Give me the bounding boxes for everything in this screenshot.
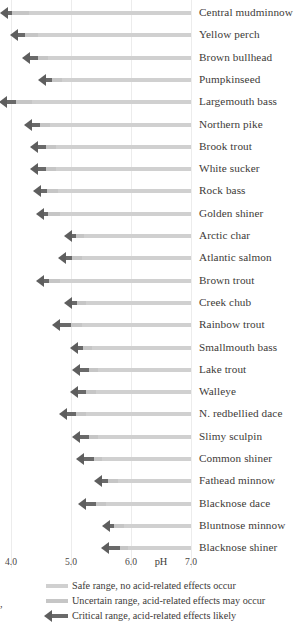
safe-range-segment bbox=[98, 368, 191, 372]
species-row[interactable]: Golden shiner bbox=[0, 203, 299, 225]
tolerance-bar bbox=[0, 24, 196, 46]
species-label: Smallmouth bass bbox=[199, 338, 277, 357]
uncertain-range-segment bbox=[16, 100, 32, 104]
legend-label: Uncertain range, acid-related effects ma… bbox=[72, 593, 265, 608]
species-label: White sucker bbox=[199, 159, 260, 178]
legend-swatch-uncertain bbox=[46, 599, 68, 603]
left-arrow-icon bbox=[0, 96, 7, 108]
uncertain-range-segment bbox=[38, 56, 48, 60]
species-row[interactable]: Walleye bbox=[0, 381, 299, 403]
species-row[interactable]: Slimy sculpin bbox=[0, 426, 299, 448]
species-label: Blacknose dace bbox=[199, 494, 270, 513]
species-row[interactable]: Fathead minnow bbox=[0, 470, 299, 492]
left-arrow-icon bbox=[64, 230, 72, 242]
tolerance-bar bbox=[0, 158, 196, 180]
tolerance-bar bbox=[0, 69, 196, 91]
species-row[interactable]: Central mudminnow bbox=[0, 2, 299, 24]
species-row[interactable]: Northern pike bbox=[0, 114, 299, 136]
left-arrow-icon bbox=[33, 185, 41, 197]
critical-range-segment bbox=[108, 546, 120, 550]
species-row[interactable]: Common shiner bbox=[0, 448, 299, 470]
uncertain-range-segment bbox=[48, 212, 60, 216]
species-label: Central mudminnow bbox=[199, 3, 293, 22]
species-label: Rainbow trout bbox=[199, 315, 265, 334]
species-row[interactable]: Arctic char bbox=[0, 225, 299, 247]
species-row[interactable]: Blacknose dace bbox=[0, 493, 299, 515]
critical-range-segment bbox=[31, 123, 40, 127]
uncertain-range-segment bbox=[72, 256, 82, 260]
uncertain-range-segment bbox=[46, 145, 56, 149]
safe-range-segment bbox=[98, 435, 191, 439]
safe-range-segment bbox=[102, 457, 191, 461]
safe-range-segment bbox=[118, 479, 191, 483]
species-label: Largemouth bass bbox=[199, 92, 277, 111]
species-label: Slimy sculpin bbox=[199, 427, 262, 446]
species-row[interactable]: Brown trout bbox=[0, 270, 299, 292]
critical-range-segment bbox=[6, 100, 16, 104]
species-row[interactable]: Brook trout bbox=[0, 136, 299, 158]
species-row[interactable]: Atlantic salmon bbox=[0, 247, 299, 269]
species-row[interactable]: Rainbow trout bbox=[0, 314, 299, 336]
tolerance-bar bbox=[0, 180, 196, 202]
species-row[interactable]: Smallmouth bass bbox=[0, 337, 299, 359]
left-arrow-icon bbox=[0, 7, 8, 19]
tolerance-bar bbox=[0, 314, 196, 336]
legend-item[interactable]: Uncertain range, acid-related effects ma… bbox=[0, 593, 299, 608]
safe-range-segment bbox=[84, 234, 191, 238]
ph-tolerance-chart: Central mudminnowYellow perchBrown bullh… bbox=[0, 0, 299, 628]
critical-range-segment bbox=[79, 435, 89, 439]
uncertain-range-segment bbox=[83, 346, 92, 350]
species-row[interactable]: Brown bullhead bbox=[0, 47, 299, 69]
safe-range-segment bbox=[96, 390, 191, 394]
safe-range-segment bbox=[60, 279, 191, 283]
species-row[interactable]: Largemouth bass bbox=[0, 91, 299, 113]
uncertain-range-segment bbox=[49, 279, 60, 283]
species-label: Pumpkinseed bbox=[199, 70, 260, 89]
species-row[interactable]: Bluntnose minnow bbox=[0, 515, 299, 537]
safe-range-segment bbox=[56, 167, 191, 171]
species-label: Lake trout bbox=[199, 360, 246, 379]
left-arrow-icon bbox=[30, 163, 38, 175]
critical-range-segment bbox=[45, 78, 52, 82]
left-arrow-icon bbox=[78, 498, 86, 510]
uncertain-range-segment bbox=[76, 412, 86, 416]
left-arrow-icon bbox=[38, 74, 46, 86]
species-label: N. redbellied dace bbox=[199, 404, 283, 423]
x-tick-label: 6.0 bbox=[125, 556, 137, 567]
species-row[interactable]: Lake trout bbox=[0, 359, 299, 381]
uncertain-range-segment bbox=[40, 123, 50, 127]
legend-swatch-safe bbox=[46, 584, 68, 588]
legend-item[interactable]: Critical range, acid-related effects lik… bbox=[0, 608, 299, 623]
species-label: Atlantic salmon bbox=[199, 248, 272, 267]
species-row[interactable]: Rock bass bbox=[0, 180, 299, 202]
species-label: Yellow perch bbox=[199, 25, 260, 44]
x-tick-label: 5.0 bbox=[65, 556, 77, 567]
critical-range-segment bbox=[79, 368, 89, 372]
uncertain-range-segment bbox=[46, 167, 56, 171]
species-label: Bluntnose minnow bbox=[199, 516, 285, 535]
tolerance-bar bbox=[0, 426, 196, 448]
tolerance-bar bbox=[0, 515, 196, 537]
legend-item[interactable]: Safe range, no acid-related effects occu… bbox=[0, 578, 299, 593]
species-row[interactable]: N. redbellied dace bbox=[0, 403, 299, 425]
x-axis-title: pH bbox=[155, 556, 168, 567]
species-row[interactable]: White sucker bbox=[0, 158, 299, 180]
x-tick-label: 7.0 bbox=[185, 556, 197, 567]
species-row[interactable]: Creek chub bbox=[0, 292, 299, 314]
species-row[interactable]: Yellow perch bbox=[0, 24, 299, 46]
critical-range-segment bbox=[37, 167, 46, 171]
tolerance-bar bbox=[0, 448, 196, 470]
critical-range-segment bbox=[59, 323, 71, 327]
species-row[interactable]: Pumpkinseed bbox=[0, 69, 299, 91]
left-arrow-icon bbox=[22, 52, 30, 64]
left-arrow-icon bbox=[70, 342, 78, 354]
uncertain-range-segment bbox=[12, 11, 29, 15]
critical-range-segment bbox=[29, 56, 38, 60]
tolerance-bar bbox=[0, 114, 196, 136]
left-arrow-icon bbox=[101, 542, 109, 554]
critical-range-segment bbox=[66, 412, 76, 416]
tolerance-bar bbox=[0, 359, 196, 381]
tolerance-bar bbox=[0, 470, 196, 492]
left-arrow-icon bbox=[44, 610, 52, 622]
uncertain-range-segment bbox=[89, 368, 98, 372]
